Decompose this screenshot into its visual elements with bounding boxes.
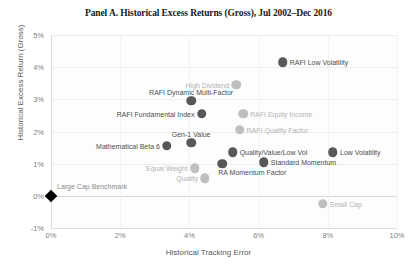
- point-label: Small Cap: [330, 200, 362, 207]
- point-label: Standard Momentum: [271, 159, 336, 166]
- point-label: Mathematical Beta 6: [96, 142, 160, 149]
- point-label: Equal Weight: [146, 165, 188, 172]
- point-label: High Dividend: [186, 81, 230, 88]
- point-label: RAFI Fundamental Index: [117, 110, 195, 117]
- scatter-point[interactable]: [278, 58, 288, 68]
- point-label: Quality/Value/Low Vol: [240, 149, 308, 156]
- point-label: Low Volatility: [340, 149, 380, 156]
- x-axis-tick-label: 2%: [115, 231, 126, 240]
- gridline-horizontal: [51, 67, 397, 68]
- scatter-point[interactable]: [328, 148, 338, 158]
- point-label: RAFI Quality Factor: [247, 126, 308, 133]
- gridline-vertical: [397, 35, 398, 228]
- scatter-point[interactable]: [190, 164, 200, 174]
- scatter-point[interactable]: [197, 109, 207, 119]
- y-axis-label: Historical Excess Return (Gross): [16, 0, 25, 173]
- scatter-point[interactable]: [231, 80, 241, 90]
- point-label: RA Momentum Factor: [218, 168, 286, 175]
- scatter-point[interactable]: [238, 109, 248, 119]
- gridline-horizontal: [51, 132, 397, 133]
- point-label: RAFI Dynamic Multi-Factor: [149, 88, 233, 95]
- scatter-point[interactable]: [186, 138, 196, 148]
- point-label: Quality: [176, 175, 198, 182]
- point-label: Large Cap Benchmark: [57, 182, 127, 189]
- x-axis-tick-label: 10%: [389, 231, 404, 240]
- scatter-point[interactable]: [235, 125, 245, 135]
- point-label: Gen-1 Value: [172, 130, 211, 137]
- x-axis-tick-label: 8%: [322, 231, 333, 240]
- gridline-horizontal: [51, 99, 397, 100]
- x-axis-tick-label: 6%: [253, 231, 264, 240]
- scatter-point[interactable]: [259, 157, 269, 167]
- gridline-horizontal: [51, 196, 397, 197]
- x-axis-label: Historical Tracking Error: [0, 248, 417, 257]
- scatter-point[interactable]: [186, 96, 196, 106]
- x-axis-tick-label: 4%: [184, 231, 195, 240]
- chart-title: Panel A. Historical Excess Returns (Gros…: [0, 8, 417, 18]
- scatter-point[interactable]: [162, 141, 172, 151]
- point-label: RAFI Low Volatility: [290, 59, 348, 66]
- gridline-horizontal: [51, 35, 397, 36]
- chart-figure: Panel A. Historical Excess Returns (Gros…: [0, 0, 417, 277]
- scatter-point[interactable]: [200, 173, 210, 183]
- point-label: RAFI Equity Income: [250, 110, 312, 117]
- y-axis-tick-label: -1%: [0, 224, 44, 233]
- x-axis-line: [51, 228, 397, 229]
- scatter-point[interactable]: [228, 148, 238, 158]
- y-axis-tick-label: 0%: [0, 191, 44, 200]
- gridline-vertical: [120, 35, 121, 228]
- scatter-point[interactable]: [218, 159, 228, 169]
- scatter-point[interactable]: [318, 199, 328, 209]
- x-axis-tick-label: 0%: [46, 231, 57, 240]
